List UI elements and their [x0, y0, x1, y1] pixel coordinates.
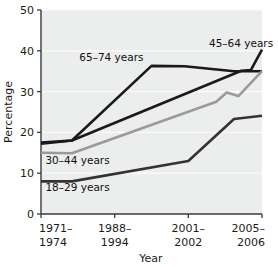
series-label-18-29-years: 18–29 years [45, 181, 109, 193]
line-chart: 01020304050 1971–19741988–19942001–20022… [0, 0, 278, 267]
x-tick-label: 2006 [237, 236, 265, 249]
x-tick-label: 2002 [174, 236, 202, 249]
x-tick-label: 1988– [98, 222, 132, 235]
y-tick-label: 0 [27, 208, 34, 221]
x-axis-title: Year [138, 252, 163, 265]
y-tick-label: 30 [20, 86, 34, 99]
x-tick-label: 1994 [101, 236, 129, 249]
series-label-65-74-years: 65–74 years [79, 51, 143, 63]
y-tick-label: 40 [20, 45, 34, 58]
x-tick-label: 2005– [232, 222, 266, 235]
x-tick-label: 1971– [39, 222, 73, 235]
y-tick-label: 20 [20, 126, 34, 139]
x-tick-label: 1974 [39, 236, 67, 249]
series-label-30-44-years: 30–44 years [45, 154, 109, 166]
x-tick-label: 2001– [172, 222, 206, 235]
y-tick-label: 10 [20, 167, 34, 180]
x-axis-tick-labels: 1971–19741988–19942001–20022005–2006 [39, 222, 265, 249]
y-axis-tick-labels: 01020304050 [20, 4, 34, 221]
chart-figure: 01020304050 1971–19741988–19942001–20022… [0, 0, 278, 267]
y-tick-label: 50 [20, 4, 34, 17]
y-axis-title: Percentage [2, 81, 15, 143]
series-label-45-64-years: 45–64 years [209, 37, 273, 49]
